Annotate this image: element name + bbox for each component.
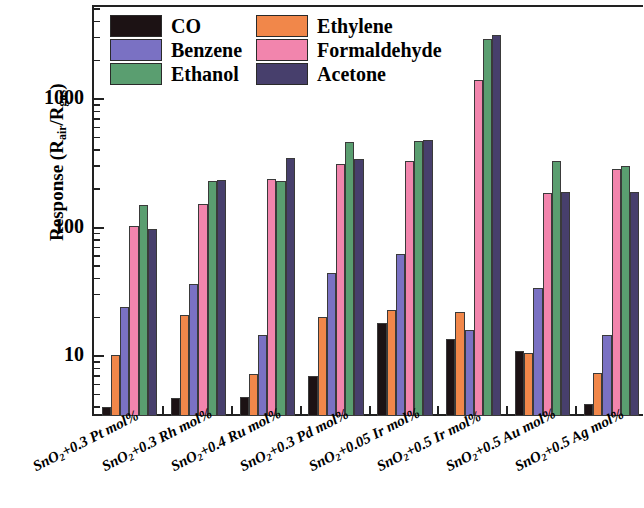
legend-swatch-benzene xyxy=(110,39,162,61)
bar-co-group-4 xyxy=(308,376,317,416)
bar-co-group-1 xyxy=(102,407,111,416)
bar-benzene-group-3 xyxy=(258,335,267,416)
bar-co-group-5 xyxy=(377,323,386,416)
y-tick-minor xyxy=(94,394,100,396)
y-tick-minor xyxy=(94,104,100,106)
bar-formaldehyde-group-2 xyxy=(198,204,207,416)
bar-acetone-group-3 xyxy=(286,158,295,416)
bar-ethylene-group-1 xyxy=(111,355,120,416)
y-tick-label-100: 100 xyxy=(54,214,84,237)
bar-benzene-group-7 xyxy=(533,288,542,416)
bar-ethylene-group-3 xyxy=(249,374,258,416)
bar-ethylene-group-2 xyxy=(180,315,189,416)
x-tick xyxy=(231,406,233,414)
legend-item-co: CO xyxy=(110,15,242,37)
bar-ethanol-group-5 xyxy=(414,141,423,416)
y-tick-minor xyxy=(94,317,100,319)
bar-co-group-7 xyxy=(515,351,524,416)
bar-formaldehyde-group-4 xyxy=(336,164,345,416)
y-tick-major xyxy=(94,227,104,229)
bar-co-group-6 xyxy=(446,339,455,416)
bar-ethanol-group-6 xyxy=(483,39,492,416)
y-tick-minor xyxy=(94,361,100,363)
legend-label-co: CO xyxy=(171,16,201,36)
bar-ethylene-group-7 xyxy=(524,353,533,416)
bar-ethylene-group-4 xyxy=(318,317,327,416)
bar-ethanol-group-7 xyxy=(552,161,561,416)
legend-item-ethylene: Ethylene xyxy=(256,15,441,37)
plot-area: COEthyleneBenzeneFormaldehydeEthanolAcet… xyxy=(92,5,643,416)
x-tick xyxy=(369,406,371,414)
legend-swatch-acetone xyxy=(256,63,308,85)
bar-acetone-group-6 xyxy=(492,35,501,416)
y-tick-minor xyxy=(94,368,100,370)
y-axis-tick-labels: 101001000 xyxy=(0,0,92,508)
x-tick xyxy=(575,406,577,414)
bar-acetone-group-8 xyxy=(630,192,639,416)
bar-ethylene-group-6 xyxy=(455,312,464,416)
bar-co-group-3 xyxy=(240,397,249,416)
y-tick-minor xyxy=(94,149,100,151)
bar-ethanol-group-4 xyxy=(345,142,354,416)
bar-acetone-group-4 xyxy=(354,159,363,416)
bar-ethanol-group-3 xyxy=(276,181,285,416)
x-tick xyxy=(300,406,302,414)
bar-formaldehyde-group-6 xyxy=(474,80,483,416)
y-tick-minor xyxy=(94,118,100,120)
legend-label-ethylene: Ethylene xyxy=(317,16,393,36)
y-tick-minor xyxy=(94,127,100,129)
legend-item-acetone: Acetone xyxy=(256,63,441,85)
y-tick-minor xyxy=(94,239,100,241)
y-tick-minor xyxy=(94,406,100,408)
y-tick-minor xyxy=(94,375,100,377)
bar-co-group-2 xyxy=(171,398,180,416)
bar-ethanol-group-8 xyxy=(621,166,630,416)
bar-formaldehyde-group-7 xyxy=(543,193,552,416)
y-tick-minor xyxy=(94,265,100,267)
x-tick xyxy=(162,406,164,414)
bar-formaldehyde-group-5 xyxy=(405,161,414,416)
x-axis-tick-labels: SnO2+0.3 Pt mol%SnO2+0.3 Rh mol%SnO2+0.4… xyxy=(92,418,644,508)
legend-label-formaldehyde: Formaldehyde xyxy=(317,40,441,60)
legend-label-acetone: Acetone xyxy=(317,64,386,84)
legend-swatch-co xyxy=(110,15,162,37)
bar-formaldehyde-group-8 xyxy=(612,169,621,416)
legend-swatch-ethanol xyxy=(110,63,162,85)
y-tick-minor xyxy=(94,294,100,296)
bar-acetone-group-7 xyxy=(561,192,570,416)
legend-item-formaldehyde: Formaldehyde xyxy=(256,39,441,61)
y-tick-minor xyxy=(94,37,100,39)
y-tick-minor xyxy=(94,384,100,386)
legend-swatch-ethylene xyxy=(256,15,308,37)
bar-benzene-group-8 xyxy=(602,335,611,416)
y-tick-minor xyxy=(94,188,100,190)
bar-ethanol-group-1 xyxy=(139,205,148,416)
y-tick-minor xyxy=(94,278,100,280)
bar-benzene-group-5 xyxy=(396,254,405,416)
legend-label-benzene: Benzene xyxy=(171,40,242,60)
y-tick-label-1000: 1000 xyxy=(44,86,84,109)
y-tick-minor xyxy=(94,137,100,139)
x-tick xyxy=(506,406,508,414)
y-tick-minor xyxy=(94,255,100,257)
bar-ethylene-group-5 xyxy=(387,310,396,416)
y-tick-major xyxy=(94,355,104,357)
bar-acetone-group-1 xyxy=(148,229,157,416)
x-tick xyxy=(437,406,439,414)
legend-label-ethanol: Ethanol xyxy=(171,64,239,84)
y-tick-minor xyxy=(94,8,100,10)
y-tick-major xyxy=(94,98,104,100)
legend: COEthyleneBenzeneFormaldehydeEthanolAcet… xyxy=(110,15,442,85)
y-tick-minor xyxy=(94,21,100,23)
bar-acetone-group-5 xyxy=(423,140,432,416)
bar-benzene-group-1 xyxy=(120,307,129,416)
y-tick-minor xyxy=(94,111,100,113)
figure: Response (Rair/Rgas) 101001000 COEthylen… xyxy=(0,0,644,508)
bar-ethanol-group-2 xyxy=(208,181,217,416)
y-tick-minor xyxy=(94,60,100,62)
bar-ethylene-group-8 xyxy=(593,373,602,416)
bar-acetone-group-2 xyxy=(217,180,226,416)
bar-benzene-group-6 xyxy=(465,330,474,416)
y-tick-label-10: 10 xyxy=(64,343,84,366)
bar-benzene-group-4 xyxy=(327,273,336,416)
